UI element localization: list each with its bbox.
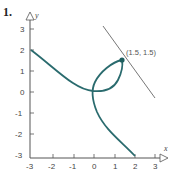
y-tick-label: 1 <box>20 67 25 76</box>
y-axis-label: y <box>34 11 39 20</box>
x-axis-arrow-icon <box>160 154 168 162</box>
parametric-curve <box>31 50 135 156</box>
x-tick-label: 0 <box>92 162 97 171</box>
y-tick-label: -3 <box>15 151 23 160</box>
y-tick-label: 3 <box>20 25 25 34</box>
y-axis-arrow-icon <box>26 12 34 20</box>
y-tick-label: -1 <box>15 109 23 118</box>
y-tick-label: 0 <box>20 88 25 97</box>
x-tick-label: -1 <box>69 162 77 171</box>
point-label: (1.5, 1.5) <box>126 48 157 57</box>
x-ticks <box>53 154 155 158</box>
x-axis-label: x <box>163 144 168 153</box>
x-tick-label: 1 <box>113 162 118 171</box>
tangent-point <box>119 57 124 62</box>
y-tick-label: -2 <box>15 130 23 139</box>
x-tick-label: -3 <box>26 162 34 171</box>
parametric-curve-chart: y x 3 2 1 0 -1 -2 -3 -3 -2 -1 0 1 2 3 (1… <box>0 0 172 176</box>
y-ticks <box>30 29 34 134</box>
y-tick-label: 2 <box>20 46 25 55</box>
x-tick-label: -2 <box>48 162 56 171</box>
x-tick-label: 2 <box>133 162 138 171</box>
x-tick-label: 3 <box>153 162 158 171</box>
